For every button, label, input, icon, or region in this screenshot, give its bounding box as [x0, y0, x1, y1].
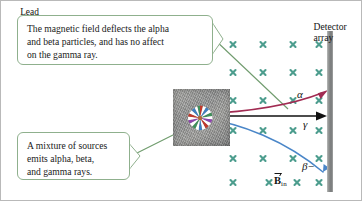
detector-array-bar [327, 31, 333, 192]
callout-bottom-line-3: and gamma rays. [27, 165, 121, 178]
callout-top-line-2: and beta particles, and has no affect [27, 35, 204, 48]
callout-bottom-line-1: A mixture of sources [27, 139, 121, 152]
gamma-track-label: γ [303, 118, 307, 130]
magnetic-field-label: Bin [274, 175, 287, 188]
callout-magnetic-field-note: The magnetic field deflects the alpha an… [17, 15, 213, 65]
detector-label-line-1: Detector [314, 21, 347, 32]
callout-top-line-3: on the gamma ray. [27, 48, 204, 61]
b-vector-symbol: B [274, 175, 281, 186]
alpha-track-label: α [297, 88, 303, 100]
callout-top-line-1: The magnetic field deflects the alpha [27, 22, 204, 35]
radioactive-source-icon [187, 105, 213, 131]
callout-bottom-tail [130, 144, 141, 169]
beta-track-label: β− [302, 160, 315, 172]
detector-array-label: Detector array [304, 9, 347, 55]
physics-diagram: Lead Detec [0, 0, 362, 201]
b-vector-subscript: in [281, 180, 287, 188]
detector-label-line-2: array [314, 32, 334, 43]
callout-source-mixture-note: A mixture of sources emits alpha, beta, … [17, 132, 130, 180]
callout-top-tail [213, 23, 224, 54]
callout-bottom-line-2: emits alpha, beta, [27, 152, 121, 165]
